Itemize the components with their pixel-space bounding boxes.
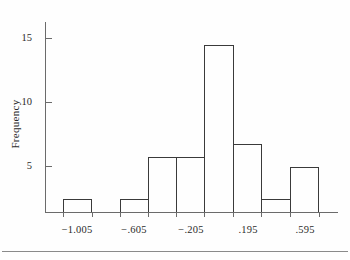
x-tick-mark xyxy=(120,212,121,217)
x-tick-mark xyxy=(319,212,320,217)
y-tick-label-wrap-15: 15 xyxy=(0,33,40,43)
x-tick-mark xyxy=(204,212,205,217)
y-tick-label-15: 15 xyxy=(22,33,33,43)
x-tick-label: −.205 xyxy=(178,224,203,236)
histogram-bar xyxy=(233,144,262,212)
x-tick-mark xyxy=(233,212,234,217)
histogram-bar xyxy=(176,157,205,212)
y-axis-title: Frequency xyxy=(9,79,21,169)
y-tick-mark-15 xyxy=(46,38,52,39)
x-tick-label: −.605 xyxy=(121,224,146,236)
histogram-bar xyxy=(261,199,291,212)
histogram-bar xyxy=(120,199,149,212)
bottom-divider xyxy=(2,251,348,252)
histogram-figure: Frequency 15 10 5 xyxy=(0,0,350,260)
histogram-bar xyxy=(290,167,319,212)
histogram-bar xyxy=(204,45,234,212)
y-axis-line xyxy=(45,22,46,213)
y-tick-mark-10 xyxy=(46,102,52,103)
x-tick-label: .595 xyxy=(295,224,314,236)
plot-area: Frequency 15 10 5 xyxy=(0,0,350,260)
x-axis-line xyxy=(45,212,338,213)
y-tick-label-10: 10 xyxy=(22,97,33,107)
y-tick-label-5: 5 xyxy=(27,161,32,171)
x-tick-label: −1.005 xyxy=(62,224,93,236)
y-tick-label-wrap-5: 5 xyxy=(0,161,40,171)
x-tick-mark xyxy=(63,212,64,217)
x-tick-mark xyxy=(148,212,149,217)
x-tick-mark xyxy=(290,212,291,217)
x-tick-mark xyxy=(261,212,262,217)
x-tick-label: .195 xyxy=(238,224,257,236)
histogram-bar xyxy=(63,199,92,212)
y-tick-label-wrap-10: 10 xyxy=(0,97,40,107)
x-tick-mark xyxy=(92,212,93,217)
y-tick-mark-5 xyxy=(46,166,52,167)
x-tick-mark xyxy=(176,212,177,217)
histogram-bar xyxy=(148,157,177,212)
